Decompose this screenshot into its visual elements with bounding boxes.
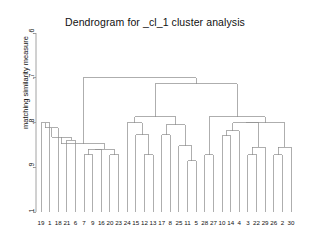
- leaf-label: 29: [262, 219, 269, 226]
- leaf-label: 7: [82, 219, 85, 226]
- leaf-label: 23: [115, 219, 122, 226]
- leaf-label: 10: [219, 219, 226, 226]
- leaf-label: 9: [91, 219, 94, 226]
- leaf-label: 11: [184, 219, 190, 226]
- leaf-label: 15: [132, 219, 139, 226]
- leaf-label: 8: [169, 219, 172, 226]
- leaf-label: 2: [281, 219, 284, 226]
- leaf-label: 4: [238, 219, 241, 226]
- leaf-label: 26: [270, 219, 277, 226]
- leaf-label: 3: [246, 219, 249, 226]
- leaf-label: 14: [227, 219, 234, 226]
- leaf-label: 19: [38, 219, 45, 226]
- leaf-label: 24: [124, 219, 131, 226]
- leaf-label: 20: [107, 219, 114, 226]
- leaf-label: 17: [158, 219, 165, 226]
- leaf-label: 18: [55, 219, 62, 226]
- leaf-label: 22: [253, 219, 260, 226]
- dendrogram-tree: [0, 0, 310, 243]
- leaf-label: 21: [63, 219, 70, 226]
- leaf-label: 30: [288, 219, 295, 226]
- leaf-label: 6: [74, 219, 77, 226]
- dendrogram-plot: Dendrogram for _cl_1 cluster analysis ma…: [0, 0, 310, 243]
- leaf-label: 25: [175, 219, 182, 226]
- leaf-label: 27: [210, 219, 217, 226]
- leaf-label: 28: [201, 219, 208, 226]
- leaf-label: 12: [141, 219, 148, 226]
- leaf-label: 5: [194, 219, 197, 226]
- leaf-label: 16: [98, 219, 105, 226]
- leaf-label: 1: [48, 219, 51, 226]
- leaf-label: 13: [150, 219, 157, 226]
